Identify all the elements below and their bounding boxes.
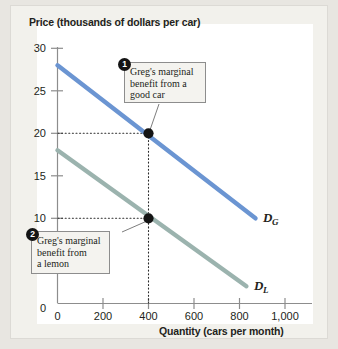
annotation-2-line1: Greg's marginal (37, 235, 105, 247)
annotation-2-line2: benefit from (37, 247, 105, 259)
annotation-1-line3: good car (130, 89, 201, 101)
annotation-badge-1: 1 (118, 58, 131, 71)
annotation-callout-lemon: Greg's marginal benefit from a lemon (31, 231, 110, 274)
annotation-2-line3: a lemon (37, 258, 105, 270)
annotation-callout-good-car: Greg's marginal benefit from a good car (124, 62, 206, 103)
figure-frame (11, 6, 327, 338)
y-axis-title: Price (thousands of dollars per car) (29, 16, 200, 28)
x-axis-title: Quantity (cars per month) (159, 325, 284, 337)
annotation-1-line2: benefit from a (130, 78, 201, 90)
annotation-badge-2: 2 (26, 228, 39, 241)
annotation-1-line1: Greg's marginal (130, 66, 201, 78)
